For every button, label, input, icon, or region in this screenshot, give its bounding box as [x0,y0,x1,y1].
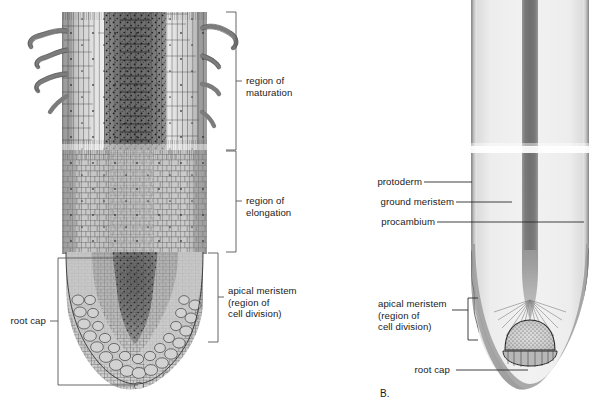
bracket-apical-meristem [208,253,218,342]
panel-a-elongation-zone [62,150,207,254]
panel-b-label-procambium: procambium [330,216,435,228]
panel-a-label-root-cap: root cap [0,315,46,327]
panel-a-label-region-of-elongation: region of elongation [246,195,291,218]
panel-a-label-apical-meristem: apical meristem (region of cell division… [228,285,297,320]
panel-a-illustration [28,12,238,395]
figure-canvas [0,0,612,412]
panel-a-maturation-zone [62,12,207,150]
root-hairs-right [202,26,236,126]
panel-a-label-region-of-maturation: region of maturation [246,75,292,98]
root-anatomy-figure: region of maturation region of elongatio… [0,0,612,412]
panel-b-tag: B. [380,388,389,399]
bracket-elongation [226,151,236,252]
panel-a-root-tip [62,250,210,395]
panel-b-label-apical-meristem: apical meristem (region of cell division… [378,298,447,333]
panel-b-label-ground-meristem: ground meristem [330,196,454,208]
panel-b-label-root-cap: root cap [378,364,450,376]
root-hairs-left [30,31,67,112]
panel-b-label-protoderm: protoderm [330,176,422,188]
